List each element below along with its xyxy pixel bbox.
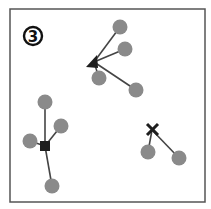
cross-hub-icon [147, 124, 158, 135]
node [23, 134, 38, 149]
node [113, 20, 128, 35]
node [54, 119, 69, 134]
square-hub-icon [40, 141, 50, 151]
panel-badge: 3 [24, 27, 42, 46]
square-cluster [23, 95, 69, 194]
node [45, 179, 60, 194]
node [129, 83, 144, 98]
node [118, 42, 133, 57]
node [141, 145, 156, 160]
panel-label: 3 [28, 28, 38, 46]
triangle-hub-icon [86, 55, 98, 68]
node [92, 71, 107, 86]
node [172, 151, 187, 166]
cluster-diagram: 3 [0, 0, 211, 209]
node [38, 95, 53, 110]
cross-cluster [141, 124, 187, 166]
triangle-cluster [86, 20, 144, 98]
